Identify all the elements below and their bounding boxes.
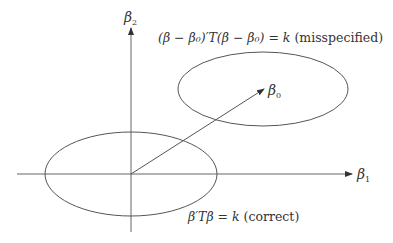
misspecified-equation: (β − β₀)′T(β − β₀) = k — [158, 30, 290, 45]
beta0-subscript: 0 — [276, 91, 281, 100]
y-axis-label-subscript: 2 — [132, 18, 137, 27]
correct-equation-label: β′Tβ = k (correct) — [188, 211, 299, 224]
beta0-symbol: β — [268, 82, 276, 98]
misspecified-note: (misspecified) — [294, 30, 383, 45]
correct-equation: β′Tβ = k — [188, 209, 240, 224]
y-axis-label: β2 — [124, 10, 137, 27]
x-axis-label-symbol: β — [357, 166, 365, 182]
x-axis-label: β1 — [357, 167, 370, 184]
x-axis-label-subscript: 1 — [365, 175, 370, 184]
correct-note: (correct) — [244, 209, 300, 224]
beta0-vector-arrow — [131, 89, 264, 174]
beta0-label: β0 — [268, 83, 281, 100]
y-axis-label-symbol: β — [124, 9, 132, 25]
misspecified-equation-label: (β − β₀)′T(β − β₀) = k (misspecified) — [158, 32, 383, 45]
diagram-canvas: β2 β1 β0 (β − β₀)′T(β − β₀) = k (misspec… — [0, 0, 393, 243]
misspecified-ellipse — [178, 52, 348, 126]
